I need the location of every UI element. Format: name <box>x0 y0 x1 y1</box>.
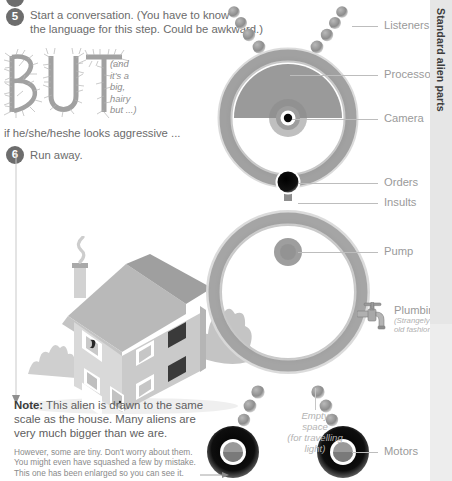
callout-orders-label: Orders <box>384 176 418 188</box>
camera-pupil <box>284 114 292 122</box>
sidebar-tab[interactable]: Standard alien parts <box>430 0 452 324</box>
shrub-left <box>28 345 78 378</box>
note-sub-line-3: This one has been enlarged so you can se… <box>14 468 184 478</box>
empty-space-line-3: (for travelling <box>276 432 354 443</box>
callout-pump-label: Pump <box>384 245 413 257</box>
leader-listeners <box>352 26 378 27</box>
step-bullet-previous <box>6 0 24 7</box>
empty-space-line-4: light) <box>276 443 354 454</box>
leader-processor <box>290 75 378 76</box>
callout-motors-label: Motors <box>384 445 418 457</box>
leader-pump <box>298 252 378 253</box>
but-aside: (and it's a big, hairy but ...) <box>110 58 158 116</box>
page-root: 5 Start a conversation. (You have to kno… <box>0 0 452 481</box>
empty-space-line-1: Empty <box>276 410 354 421</box>
callout-listeners-label: Listeners <box>384 19 429 31</box>
note-block: Note: This alien is drawn to the same sc… <box>14 398 214 478</box>
leader-orders <box>298 183 378 184</box>
but-aside-line-3: big, <box>110 81 158 93</box>
but-aside-line-5: but ...) <box>110 104 158 116</box>
smoke <box>78 237 83 262</box>
callout-orders: Orders <box>384 176 418 188</box>
callout-listeners: Listeners <box>384 19 429 31</box>
chimney <box>72 263 88 298</box>
sidebar-title: Standard alien parts <box>435 8 447 112</box>
callout-camera: Camera <box>384 112 424 124</box>
callout-camera-label: Camera <box>384 112 424 124</box>
antenna-right <box>311 6 348 53</box>
callout-processor: Processor <box>384 68 434 80</box>
note-sub-arrow-icon <box>200 471 230 479</box>
antenna-left <box>228 6 265 53</box>
empty-space-leader-line <box>315 388 316 410</box>
alien-mouth-neck <box>276 170 301 202</box>
but-aside-line-4: hairy <box>110 93 158 105</box>
empty-space-line-2: space <box>276 421 354 432</box>
leg-left <box>238 385 265 426</box>
leader-motors <box>352 452 378 453</box>
callout-processor-label: Processor <box>384 68 434 80</box>
alien-illustration <box>200 0 400 481</box>
but-aside-line-1: (and <box>110 58 158 70</box>
leader-insults <box>298 203 378 204</box>
callout-insults-label: Insults <box>384 196 416 208</box>
note-sub-line-1: However, some are tiny. Don't worry abou… <box>14 447 214 458</box>
empty-space-label: Empty space (for travelling light) <box>276 410 354 454</box>
alien-head <box>225 55 351 181</box>
faucet-icon <box>357 302 393 336</box>
note-label: Note: <box>14 399 43 411</box>
leader-camera <box>292 119 378 120</box>
callout-insults: Insults <box>384 196 416 208</box>
step-bullet-5: 5 <box>6 8 24 26</box>
callout-pump: Pump <box>384 245 413 257</box>
sidebar-lower-panel <box>430 324 452 481</box>
but-aside-line-2: it's a <box>110 70 158 82</box>
alien-body <box>214 218 362 366</box>
mouth-orifice <box>278 172 299 193</box>
note-sub-line-2: You might even have squashed a few by mi… <box>14 457 214 468</box>
note-sub-text: However, some are tiny. Don't worry abou… <box>14 447 214 479</box>
note-main-text: Note: This alien is drawn to the same sc… <box>14 398 214 441</box>
callout-motors: Motors <box>384 445 418 457</box>
note-main-body: This alien is drawn to the same scale as… <box>14 399 203 439</box>
